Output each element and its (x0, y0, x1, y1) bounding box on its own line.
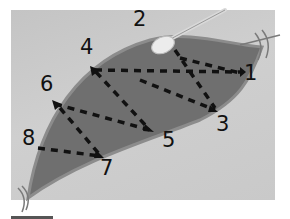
label-7: 7 (100, 158, 113, 179)
label-6: 6 (40, 74, 53, 95)
label-1: 1 (244, 63, 257, 84)
label-4: 4 (80, 37, 93, 58)
label-3: 3 (216, 114, 229, 135)
label-5: 5 (162, 130, 175, 151)
label-8: 8 (22, 128, 35, 149)
label-2: 2 (133, 9, 146, 30)
caption-bar (11, 216, 53, 219)
tissue-illustration (0, 0, 290, 219)
